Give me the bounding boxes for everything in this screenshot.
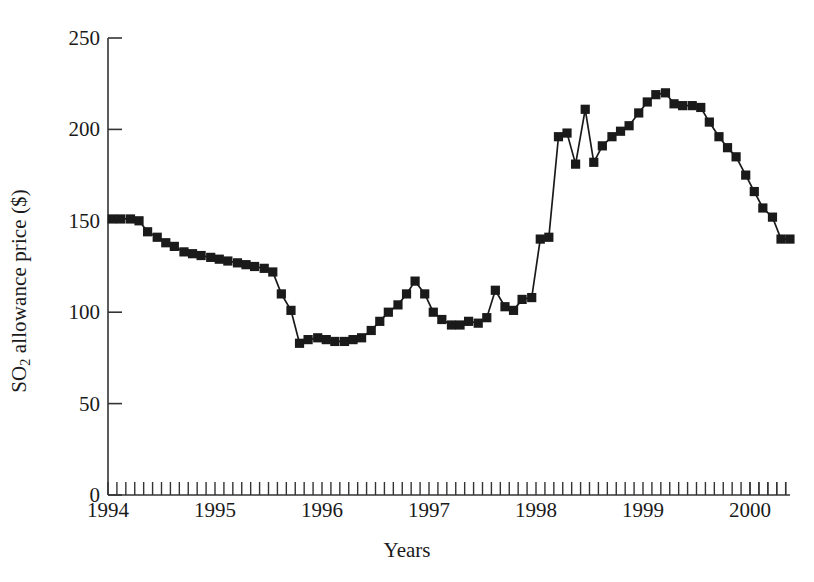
x-tick-label-1997: 1997 — [408, 500, 450, 521]
x-tick-label-1996: 1996 — [301, 500, 343, 521]
x-axis-label-text: Years — [384, 538, 431, 562]
x-tick-label-1995: 1995 — [194, 500, 236, 521]
plot-area — [0, 0, 814, 582]
x-axis-minor-ticks — [108, 482, 786, 495]
x-axis-label: Years — [0, 538, 814, 563]
x-tick-label-2000: 2000 — [729, 500, 771, 521]
y-axis-major-ticks — [108, 38, 122, 495]
chart-figure: SO2 allowance price ($) 050100150200250 … — [0, 0, 814, 582]
data-series-line — [112, 93, 790, 343]
x-axis-tick-labels: 1994199519961997199819992000 — [0, 500, 814, 540]
data-series-markers — [108, 88, 795, 348]
x-tick-label-1998: 1998 — [515, 500, 557, 521]
x-tick-label-1999: 1999 — [622, 500, 664, 521]
x-tick-label-1994: 1994 — [87, 500, 129, 521]
